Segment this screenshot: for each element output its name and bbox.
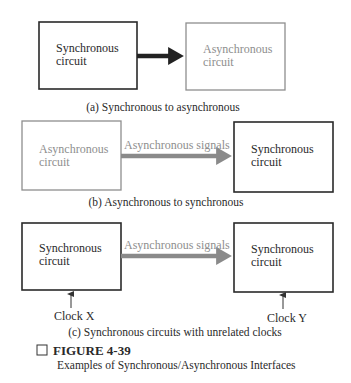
panel-a: Synchronous circuit Asynchronous circuit… <box>39 22 285 114</box>
clock-x-label: Clock X <box>54 309 95 323</box>
panel-caption: (a) Synchronous to asynchronous <box>86 101 240 114</box>
figure-marker-square <box>37 345 47 355</box>
sync-circuit-box <box>234 223 333 292</box>
sync-circuit-box <box>39 22 137 89</box>
panel-c: Synchronous circuit Asynchronous signals… <box>22 223 333 339</box>
box-label-line1: Synchronous <box>251 142 314 156</box>
box-label-line1: Synchronous <box>56 41 119 55</box>
figure-caption: FIGURE 4-39 Examples of Synchronous/Asyn… <box>37 343 296 372</box>
box-label-line2: circuit <box>39 254 70 268</box>
box-label-line1: Asynchronous <box>39 142 109 156</box>
arrow-label: Asynchronous signals <box>124 238 230 252</box>
box-label-line1: Synchronous <box>251 242 314 256</box>
box-label-line2: circuit <box>56 54 87 68</box>
sync-circuit-box <box>22 223 121 290</box>
box-label-line2: circuit <box>251 155 282 169</box>
figure-description: Examples of Synchronous/Asynchronous Int… <box>57 359 296 372</box>
arrow-label: Asynchronous signals <box>124 138 230 152</box>
clock-y-label: Clock Y <box>267 311 307 325</box>
panel-caption: (b) Asynchronous to synchronous <box>89 196 244 209</box>
box-label-line1: Synchronous <box>39 241 102 255</box>
panel-caption: (c) Synchronous circuits with unrelated … <box>68 326 282 339</box>
box-label-line2: circuit <box>39 155 70 169</box>
figure-number: FIGURE 4-39 <box>53 343 131 358</box>
box-label-line2: circuit <box>251 255 282 269</box>
figure-diagram: Synchronous circuit Asynchronous circuit… <box>0 0 351 383</box>
box-label-line1: Asynchronous <box>203 42 273 56</box>
async-circuit-box <box>186 23 285 90</box>
panel-b: Asynchronous circuit Asynchronous signal… <box>22 121 333 209</box>
box-label-line2: circuit <box>203 55 234 69</box>
sync-circuit-box <box>234 122 333 192</box>
